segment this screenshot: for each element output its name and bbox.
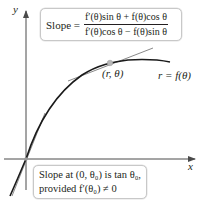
origin-slope-note-box: Slope at (0, θ₀) is tan θ₀, provided f′(… xyxy=(33,165,147,199)
curve-label: r = f(θ) xyxy=(158,69,191,81)
origin-marker xyxy=(24,157,28,161)
point-marker xyxy=(107,60,113,66)
slope-label: Slope = xyxy=(46,19,80,31)
fraction-denominator: f′(θ)cos θ − f(θ)sin θ xyxy=(84,25,168,38)
fraction-numerator: f′(θ)sin θ + f(θ)cos θ xyxy=(84,11,168,25)
point-label: (r, θ) xyxy=(102,67,123,79)
slope-fraction: f′(θ)sin θ + f(θ)cos θ f′(θ)cos θ − f(θ)… xyxy=(84,11,168,38)
note-line-1: Slope at (0, θ₀) is tan θ₀, xyxy=(39,168,146,182)
x-axis-label: x xyxy=(188,160,193,172)
note-line-2: provided f′(θ₀) ≠ 0 xyxy=(39,182,146,196)
slope-formula-box: Slope = f′(θ)sin θ + f(θ)cos θ f′(θ)cos … xyxy=(40,8,182,41)
y-axis-label: y xyxy=(13,3,18,15)
